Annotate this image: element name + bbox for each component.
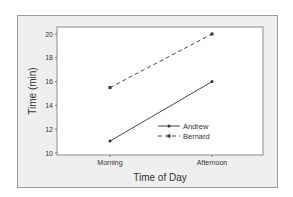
x-tick-label: Morning <box>97 159 122 167</box>
legend-marker-andrew <box>168 125 171 128</box>
y-tick-label: 16 <box>45 78 53 85</box>
x-axis-title: Time of Day <box>133 172 187 183</box>
y-tick-label: 20 <box>45 31 53 38</box>
x-tick-label: Afternoon <box>197 159 227 166</box>
marker-dot-andrew <box>211 80 214 83</box>
legend-label-andrew: Andrew <box>183 122 209 131</box>
y-tick-label: 12 <box>45 126 53 133</box>
y-axis-title: Time (min) <box>27 67 38 114</box>
legend-label-bernard: Bernard <box>183 132 210 141</box>
legend-marker-bernard <box>168 135 171 138</box>
marker-square-bernard <box>211 33 214 36</box>
y-tick-label: 10 <box>45 150 53 157</box>
y-tick-label: 14 <box>45 102 53 109</box>
y-tick-label: 18 <box>45 54 53 61</box>
marker-square-bernard <box>109 86 112 89</box>
marker-dot-andrew <box>109 140 112 143</box>
line-chart: 101214161820MorningAfternoonTime of DayT… <box>0 0 293 197</box>
